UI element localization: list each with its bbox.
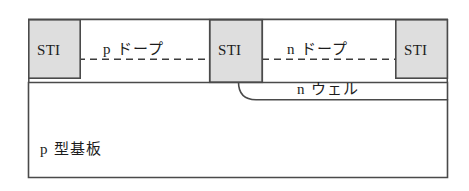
semiconductor-cross-section-diagram: STI STI STI p ドープ n ドープ n ウェル p 型基板: [0, 0, 469, 191]
n-well-label: n ウェル: [297, 82, 359, 97]
n-dope-label: n ドープ: [287, 42, 348, 57]
sti-right-label: STI: [404, 43, 427, 58]
p-substrate-label: p 型基板: [40, 142, 102, 157]
p-dope-label: p ドープ: [103, 42, 164, 57]
diagram-canvas: [0, 0, 469, 191]
sti-middle-label: STI: [218, 43, 241, 58]
p-substrate-region: [29, 83, 448, 178]
sti-left-label: STI: [37, 43, 60, 58]
